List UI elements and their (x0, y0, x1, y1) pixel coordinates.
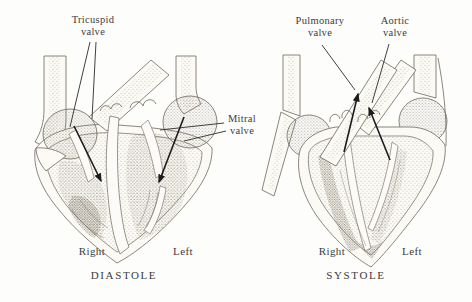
pulmonary-valve-label: Pulmonary valve (289, 15, 351, 39)
pulmonary-valve-label-line1: Pulmonary (289, 15, 351, 27)
diastole-right-chamber-label: Right (69, 245, 115, 257)
aortic-valve-label: Aortic valve (370, 15, 420, 39)
systole-heart-illustration (262, 55, 447, 267)
systole-caption: SYSTOLE (308, 269, 404, 281)
mitral-valve-label-line2: valve (222, 125, 262, 137)
tricuspid-valve-label-line2: valve (56, 26, 130, 38)
aortic-valve-label-line2: valve (370, 27, 420, 39)
pulmonary-pointer-line (322, 45, 355, 90)
mitral-valve-label: Mitral valve (222, 113, 262, 137)
diastole-left-chamber-label: Left (160, 245, 206, 257)
diastole-caption: DIASTOLE (76, 269, 172, 281)
systole-left-chamber-label: Left (389, 245, 435, 257)
tricuspid-pointer-line-2 (92, 42, 96, 119)
systole-right-chamber-label: Right (309, 245, 355, 257)
mitral-valve-label-line1: Mitral (222, 113, 262, 125)
tricuspid-valve-label: Tricuspid valve (56, 14, 130, 38)
diastole-heart-illustration (35, 56, 217, 263)
pulmonary-valve-label-line2: valve (289, 27, 351, 39)
heart-valves-figure: Tricuspid valve Mitral valve Pulmonary v… (0, 0, 472, 302)
tricuspid-valve-label-line1: Tricuspid (56, 14, 130, 26)
aortic-valve-label-line1: Aortic (370, 15, 420, 27)
